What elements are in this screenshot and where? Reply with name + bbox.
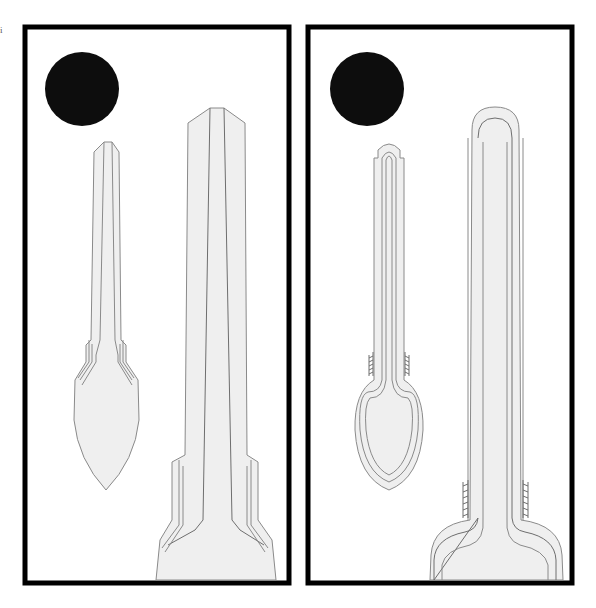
left-black-disc bbox=[45, 52, 119, 126]
figure-canvas bbox=[0, 0, 596, 608]
left-panel bbox=[25, 27, 289, 583]
right-panel bbox=[308, 27, 572, 583]
right-black-disc bbox=[330, 52, 404, 126]
